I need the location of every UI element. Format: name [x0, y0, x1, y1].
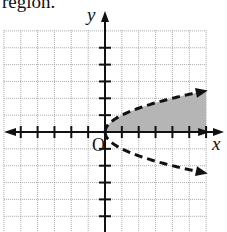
- y-axis-label: y: [85, 4, 96, 25]
- origin-label: O: [92, 135, 105, 155]
- graph: x y O: [0, 0, 227, 232]
- shaded-region: [105, 91, 206, 132]
- x-axis-label: x: [211, 133, 221, 154]
